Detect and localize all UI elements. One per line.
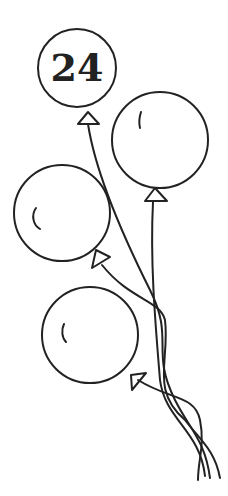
balloon-number: 24 bbox=[51, 45, 104, 90]
balloons-illustration: 24 bbox=[0, 0, 228, 496]
balloon-4-body bbox=[42, 287, 138, 383]
balloon-3-highlight bbox=[33, 208, 40, 229]
balloon-4-highlight bbox=[62, 324, 66, 342]
balloon-2-body bbox=[112, 92, 208, 188]
balloon-2-highlight bbox=[139, 112, 141, 128]
balloon-4 bbox=[42, 287, 146, 390]
balloon-2-knot bbox=[145, 188, 167, 201]
balloon-1-knot bbox=[78, 112, 99, 124]
balloon-3-body bbox=[14, 165, 110, 261]
balloon-2 bbox=[112, 92, 208, 201]
balloon-3 bbox=[14, 165, 110, 268]
balloon-4-knot bbox=[131, 373, 146, 390]
balloon-3-knot bbox=[92, 250, 110, 268]
balloon-strings bbox=[88, 124, 220, 480]
balloon-24: 24 bbox=[38, 29, 116, 124]
